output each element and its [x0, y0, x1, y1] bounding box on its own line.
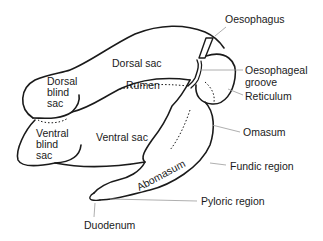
label-dorsal-sac: Dorsal sac: [112, 58, 162, 69]
reticulum-outline: [196, 54, 236, 104]
label-ventral-sac: Ventral sac: [96, 132, 148, 143]
omasum-outline: [100, 102, 213, 200]
duodenum-tip: [90, 193, 100, 200]
label-duodenum: Duodenum: [84, 220, 135, 231]
ventral-sac-bottom: [55, 162, 145, 167]
label-oesophagus: Oesophagus: [225, 14, 285, 25]
label-oesophageal-groove-2: groove: [245, 77, 277, 88]
label-reticulum: Reticulum: [245, 91, 292, 102]
leader-duodenum: [94, 203, 95, 217]
label-oesophageal-groove-1: Oesophageal: [245, 65, 307, 76]
leader-fundic-region: [210, 163, 226, 165]
label-rumen: Rumen: [126, 80, 160, 91]
leader-oesophagus: [215, 27, 226, 36]
label-dorsal-blind-sac-3: sac: [47, 98, 63, 109]
leader-omasum: [212, 125, 240, 132]
reticulum-dotted-line: [205, 82, 214, 102]
label-fundic-region: Fundic region: [230, 161, 294, 172]
leader-pyloric-region: [110, 199, 197, 201]
stomach-diagram: [0, 0, 323, 241]
label-pyloric-region: Pyloric region: [201, 196, 265, 207]
label-ventral-blind-sac-3: sac: [36, 150, 52, 161]
label-omasum: Omasum: [243, 127, 286, 138]
omasum-dotted-line: [170, 110, 190, 150]
